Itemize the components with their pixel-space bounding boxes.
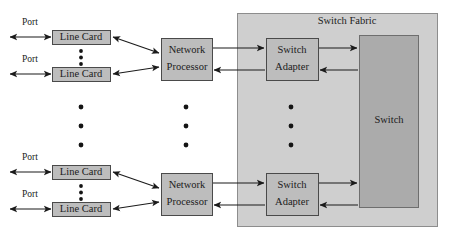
line-card-2-to-np-1-link — [113, 67, 159, 74]
port-label-4: Port — [22, 189, 38, 199]
line-card-group-2-ellipsis — [79, 184, 83, 201]
line-card-column-ellipsis — [79, 105, 84, 148]
switch-adapter-label-1-line2: Adapter — [275, 61, 309, 72]
port-label-2: Port — [22, 54, 38, 64]
switch-adapter-label-2-line1: Switch — [277, 179, 307, 190]
line-card-label-3: Line Card — [60, 166, 103, 177]
router-architecture-diagram: Switch Fabric Switch Port Line Card Port… — [0, 0, 462, 242]
switch-label: Switch — [374, 114, 404, 125]
line-card-4-to-np-2-link — [113, 202, 159, 209]
network-processor-label-2-line2: Processor — [167, 196, 208, 207]
line-card-label-1: Line Card — [60, 31, 103, 42]
switch-adapter-label-2-line2: Adapter — [275, 196, 309, 207]
line-card-1-to-np-1-link — [113, 37, 159, 53]
network-processor-label-1-line1: Network — [169, 44, 206, 55]
switch-adapter-label-1-line1: Switch — [277, 44, 307, 55]
diagram-canvas: Switch Fabric Switch Port Line Card Port… — [0, 0, 462, 242]
port-label-1: Port — [22, 17, 38, 27]
port-label-3: Port — [22, 152, 38, 162]
network-processor-column-ellipsis — [184, 105, 189, 148]
line-card-group-1-ellipsis — [79, 49, 83, 66]
line-card-label-4: Line Card — [60, 203, 103, 214]
network-processor-label-2-line1: Network — [169, 179, 206, 190]
line-card-label-2: Line Card — [60, 68, 103, 79]
network-processor-label-1-line2: Processor — [167, 61, 208, 72]
switch-fabric-label: Switch Fabric — [318, 15, 377, 26]
line-card-3-to-np-2-link — [113, 172, 159, 188]
